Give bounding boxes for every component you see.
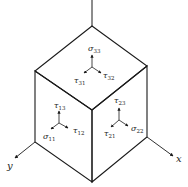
left-face <box>35 71 92 182</box>
tau21-arrow <box>111 120 119 127</box>
x-axis-label: x <box>176 153 182 164</box>
stress-cube-diagram: y x σ33 τ31 τ32 τ13 σ11 τ12 τ23 τ21 <box>0 0 188 187</box>
right-face-stresses <box>111 108 128 127</box>
sigma22-label: σ22 <box>131 124 143 134</box>
tau31-label: τ31 <box>74 76 85 86</box>
tau21-label: τ21 <box>104 129 115 139</box>
y-axis <box>15 142 35 158</box>
left-face-stresses <box>51 111 68 129</box>
tau12-label: τ12 <box>73 126 84 136</box>
y-axis-label: y <box>6 160 13 171</box>
sigma11-arrow <box>51 123 59 129</box>
sigma33-label: σ33 <box>88 44 101 54</box>
sigma22-arrow <box>119 120 128 126</box>
x-axis <box>147 137 173 156</box>
sigma11-label: σ11 <box>43 132 55 142</box>
tau12-left-arrow <box>59 123 68 128</box>
tau23-label: τ23 <box>114 96 126 106</box>
tau32-arrow <box>92 67 101 73</box>
right-face <box>92 66 147 182</box>
top-face-stresses <box>84 55 101 73</box>
tau31-arrow <box>84 67 92 73</box>
tau13-label: τ13 <box>54 101 66 111</box>
tau32-label: τ32 <box>103 71 114 81</box>
